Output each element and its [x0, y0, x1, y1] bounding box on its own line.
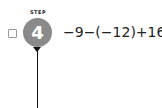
step-number-badge: 4 [23, 18, 52, 47]
timeline-connector [37, 50, 38, 108]
step-label: STEP [26, 9, 50, 15]
step-checkbox[interactable] [8, 29, 17, 38]
math-expression: −9−(−12)+16 [63, 24, 162, 40]
